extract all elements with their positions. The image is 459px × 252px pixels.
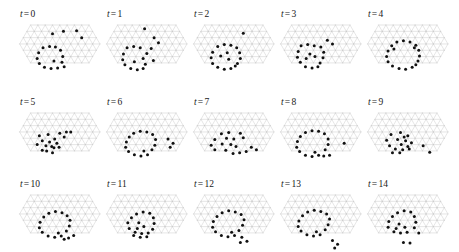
particle-dot <box>299 135 302 138</box>
particle-dot <box>210 56 213 59</box>
particle-dot <box>331 42 334 45</box>
particle-dots <box>188 109 276 169</box>
particle-dot <box>61 55 64 58</box>
particle-dot <box>324 228 327 231</box>
lattice-plot <box>188 21 276 81</box>
particle-dot <box>213 138 216 141</box>
panel-label: t=1 <box>107 8 189 21</box>
particle-dot <box>133 60 136 63</box>
particle-dot <box>136 227 139 230</box>
particle-dot <box>144 63 147 66</box>
particle-dot <box>50 145 53 148</box>
particle-dot <box>410 141 413 144</box>
particle-dots <box>362 21 450 81</box>
particle-dot <box>216 45 219 48</box>
particle-dot <box>401 148 404 151</box>
particle-dot <box>387 49 390 52</box>
panel-t-0: t=0 <box>14 8 102 81</box>
particle-dot <box>239 132 242 135</box>
label-time-value: 9 <box>378 97 383 107</box>
particle-dot <box>233 234 236 237</box>
label-time-value: 10 <box>30 179 40 189</box>
particle-dot <box>403 226 406 229</box>
particle-dot <box>396 138 399 141</box>
panel-t-10: t=10 <box>14 178 102 251</box>
panel-label: t=2 <box>194 8 276 21</box>
particle-dot <box>406 231 409 234</box>
particle-dot <box>129 67 132 70</box>
particle-dot <box>316 65 319 68</box>
particle-dot <box>255 148 258 151</box>
particle-dot <box>422 144 425 147</box>
particle-dots <box>14 191 102 251</box>
particle-dot <box>305 233 308 236</box>
particle-dot <box>134 231 137 234</box>
particle-dot <box>226 51 229 54</box>
particle-dot <box>145 52 148 55</box>
particle-dot <box>333 247 336 250</box>
particle-dot <box>126 221 129 224</box>
particle-dot <box>395 227 398 230</box>
particle-dot <box>150 148 153 151</box>
particle-dot <box>232 152 235 155</box>
particle-dot <box>123 63 126 66</box>
particle-dot <box>51 32 54 35</box>
particle-dot <box>63 136 66 139</box>
particle-dots <box>101 21 189 81</box>
particle-dot <box>321 56 324 59</box>
particle-dot <box>295 146 298 149</box>
particle-dot <box>154 138 157 141</box>
particle-dot <box>59 49 62 52</box>
lattice-plot <box>101 109 189 169</box>
panel-t-11: t=11 <box>101 178 189 251</box>
panel-label: t=5 <box>20 96 102 109</box>
particle-dot <box>36 57 39 60</box>
particle-dot <box>58 146 61 149</box>
panel-t-9: t=9 <box>362 96 450 169</box>
particle-dot <box>398 223 401 226</box>
particle-dot <box>223 43 226 46</box>
particle-dot <box>146 153 149 156</box>
particle-dot <box>311 155 314 158</box>
particle-dot <box>225 137 228 140</box>
particle-dot <box>142 67 145 70</box>
panel-t-12: t=12 <box>188 178 276 251</box>
particle-dot <box>388 144 391 147</box>
particle-dot <box>229 67 232 70</box>
particle-dot <box>229 143 232 146</box>
particle-dot <box>38 134 41 137</box>
particle-dot <box>331 239 334 242</box>
lattice-plot <box>101 191 189 251</box>
particle-dots <box>275 109 363 169</box>
particle-dot <box>58 132 61 135</box>
particle-dot <box>42 46 45 49</box>
particle-dot <box>297 219 300 222</box>
particle-dot <box>36 143 39 146</box>
particle-dot <box>219 54 222 57</box>
particle-dot <box>53 236 56 239</box>
particle-dot <box>172 142 175 145</box>
panel-t-8: t=8 <box>275 96 363 169</box>
particle-dot <box>216 215 219 218</box>
particle-dot <box>124 146 127 149</box>
label-time-value: 14 <box>378 179 388 189</box>
panel-label: t=0 <box>20 8 102 21</box>
particle-dot <box>313 55 316 58</box>
particle-dot <box>63 65 66 68</box>
particle-dot <box>403 209 406 212</box>
particle-dot <box>210 144 213 147</box>
particle-dot <box>55 142 58 145</box>
particle-dot <box>392 230 395 233</box>
particle-dot <box>41 149 44 152</box>
particle-dot <box>313 209 316 212</box>
particle-dot <box>132 132 135 135</box>
particle-dot <box>42 216 45 219</box>
particle-dot <box>306 43 309 46</box>
particle-dot <box>297 225 300 228</box>
particle-dot <box>213 148 216 151</box>
particle-dot <box>132 45 135 48</box>
particle-dot <box>239 57 242 60</box>
particle-dots <box>101 109 189 169</box>
particle-dot <box>48 45 51 48</box>
panel-t-6: t=6 <box>101 96 189 169</box>
